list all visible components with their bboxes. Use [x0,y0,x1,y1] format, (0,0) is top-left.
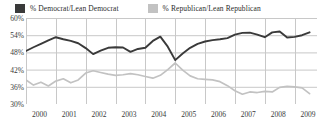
x-axis-tick: 2006 [211,110,226,119]
legend-item-republican: % Republican/Lean Republican [148,4,261,13]
legend-swatch-republican-icon [148,4,158,13]
legend-item-democrat: % Democrat/Lean Democrat [15,4,119,13]
poll-trend-chart: % Democrat/Lean Democrat % Republican/Le… [0,0,321,128]
y-axis-tick: 30% [10,100,24,109]
plot-area: 60%54%48%42%36%30% [0,18,321,110]
y-axis-tick: 60% [10,14,24,23]
x-axis-tick: 2003 [121,110,136,119]
x-axis-tick: 2007 [241,110,256,119]
chart-legend: % Democrat/Lean Democrat % Republican/Le… [0,0,321,16]
y-axis-tick: 36% [10,82,24,91]
x-axis-tick: 2000 [32,110,47,119]
x-axis-tick: 2008 [271,110,286,119]
y-axis-tick: 54% [10,31,24,40]
legend-label-democrat: % Democrat/Lean Democrat [30,4,119,13]
series-canvas [26,18,317,104]
x-axis-tick: 2005 [181,110,196,119]
x-axis-labels: 2000200120022003200420052006200720082009 [26,110,317,124]
x-axis-tick: 2004 [151,110,166,119]
y-axis-labels: 60%54%48%42%36%30% [0,18,26,104]
plot-grid [26,18,317,104]
legend-label-republican: % Republican/Lean Republican [163,4,261,13]
x-axis-tick: 2002 [92,110,107,119]
y-axis-tick: 48% [10,48,24,57]
legend-swatch-democrat-icon [15,4,25,13]
x-axis-tick: 2001 [62,110,77,119]
series-lines [26,31,310,94]
series-line-republican [26,63,310,94]
y-axis-tick: 42% [10,65,24,74]
x-axis-tick: 2009 [301,110,316,119]
gridlines-vertical [27,18,296,104]
